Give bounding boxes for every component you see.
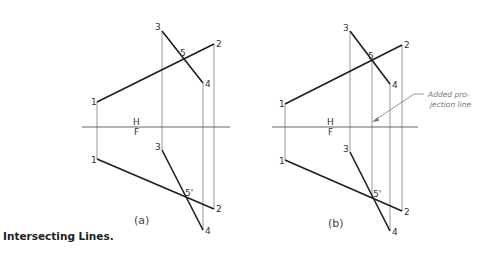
line-1-2-top [285, 45, 402, 104]
point-4-top: 4 [205, 79, 211, 89]
point-1-top: 1 [91, 97, 97, 107]
point-2-top: 2 [216, 39, 222, 49]
figure-caption: Intersecting Lines. [3, 230, 114, 242]
note-line-2: jection line [429, 100, 471, 109]
point-3-front: 3 [155, 142, 161, 152]
point-2-front: 2 [404, 207, 410, 217]
view-a: H F 1 2 3 4 5 1 2 3 4 5' (a) [82, 22, 230, 236]
line-1-2-top [97, 44, 214, 102]
point-2-top: 2 [404, 40, 410, 50]
fold-label-h: H [327, 117, 334, 127]
point-3-front: 3 [343, 144, 349, 154]
view-label-a: (a) [134, 214, 149, 227]
intersecting-lines-diagram: H F 1 2 3 4 5 1 2 3 4 5' (a) H F 1 2 [0, 0, 494, 254]
point-4-front: 4 [205, 226, 211, 236]
point-5-top: 5 [180, 48, 186, 58]
fold-label-h: H [133, 117, 140, 127]
view-label-b: (b) [328, 217, 344, 230]
point-1-top: 1 [279, 99, 285, 109]
line-1-2-front [285, 160, 402, 211]
note-line-1: Added pro- [427, 90, 470, 99]
point-4-front: 4 [392, 227, 398, 237]
point-2-front: 2 [216, 204, 222, 214]
view-b: H F 1 2 3 4 5 1 2 3 4 5' (b) Added pro- … [272, 23, 471, 237]
point-1-front: 1 [91, 155, 97, 165]
fold-label-f: F [328, 127, 333, 137]
point-3-top: 3 [155, 22, 161, 32]
point-3-top: 3 [343, 23, 349, 33]
point-5-front: 5' [373, 189, 381, 199]
point-1-front: 1 [279, 156, 285, 166]
point-4-top: 4 [392, 80, 398, 90]
fold-label-f: F [134, 127, 139, 137]
point-5-top: 5 [368, 51, 374, 61]
leader-line [375, 94, 424, 120]
point-5-front: 5' [185, 188, 193, 198]
line-1-2-front [97, 159, 214, 209]
leader-arrow-icon [372, 117, 379, 122]
